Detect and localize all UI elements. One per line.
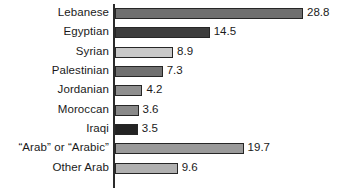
bar-value-label: 3.5 (142, 122, 158, 135)
category-label: Syrian (0, 45, 109, 58)
category-label: Jordanian (0, 83, 109, 96)
bar-row: Palestinian7.3 (0, 64, 341, 83)
bar (115, 124, 138, 135)
bar-value-label: 9.6 (182, 161, 198, 174)
bar (115, 8, 303, 19)
category-label: Egyptian (0, 25, 109, 38)
bar-chart: Lebanese28.8Egyptian14.5Syrian8.9Palesti… (0, 0, 341, 192)
bar-value-label: 3.6 (143, 103, 159, 116)
bar-value-label: 14.5 (214, 25, 236, 38)
bar-row: Moroccan3.6 (0, 103, 341, 122)
bar (115, 105, 139, 116)
plot-area: Lebanese28.8Egyptian14.5Syrian8.9Palesti… (0, 0, 341, 192)
bar-value-label: 4.2 (146, 83, 162, 96)
bar-value-label: 19.7 (248, 141, 270, 154)
bar (115, 47, 173, 58)
bar-row: Lebanese28.8 (0, 6, 341, 25)
bar-row: Other Arab9.6 (0, 161, 341, 180)
category-label: Moroccan (0, 103, 109, 116)
bar-row: Jordanian4.2 (0, 83, 341, 102)
bar (115, 66, 163, 77)
bar (115, 143, 244, 154)
category-label: Other Arab (0, 161, 109, 174)
bar (115, 27, 210, 38)
category-label: Lebanese (0, 6, 109, 19)
bar-value-label: 8.9 (177, 45, 193, 58)
bar-value-label: 28.8 (307, 6, 329, 19)
bar-row: Syrian8.9 (0, 45, 341, 64)
bar-row: “Arab” or “Arabic”19.7 (0, 141, 341, 160)
bar-row: Egyptian14.5 (0, 25, 341, 44)
bar (115, 163, 178, 174)
category-label: Iraqi (0, 122, 109, 135)
bar (115, 85, 142, 96)
bar-value-label: 7.3 (167, 64, 183, 77)
category-label: Palestinian (0, 64, 109, 77)
bar-row: Iraqi3.5 (0, 122, 341, 141)
category-label: “Arab” or “Arabic” (0, 141, 109, 154)
